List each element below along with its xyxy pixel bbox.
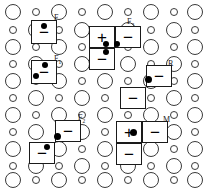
lattice-circle-big [187, 107, 203, 123]
dot-f2-1 [54, 133, 61, 140]
cell-m-bl-symbol: − [117, 144, 141, 164]
lattice-circle-small [170, 145, 178, 153]
lattice-circle-small [191, 94, 199, 102]
label-f1: F1 [54, 55, 61, 65]
lattice-circle-small [191, 26, 199, 34]
cell-f2-bot[interactable]: − [29, 142, 55, 164]
label-f: F [54, 14, 58, 22]
lattice-circle-big [187, 39, 203, 55]
lattice-circle-big [166, 90, 182, 106]
lattice-circle-big [74, 90, 90, 106]
lattice-circle-big [97, 4, 113, 20]
lattice-circle-small [101, 94, 109, 102]
dot-f3-3 [103, 49, 109, 55]
lattice-circle-big [74, 56, 90, 72]
lattice-circle-small [78, 8, 86, 16]
lattice-circle-small [170, 176, 178, 184]
dot-f-a [41, 23, 47, 29]
lattice-circle-big [187, 4, 203, 20]
cell-r-bot[interactable]: − [120, 87, 146, 109]
lattice-circle-small [170, 43, 178, 51]
lattice-circle-small [32, 111, 40, 119]
lattice-circle-small [147, 26, 155, 34]
label-f3-subscript: 3 [131, 22, 134, 28]
lattice-circle-big [97, 141, 113, 157]
label-f2: F2 [78, 114, 85, 124]
lattice-circle-big [74, 22, 90, 38]
lattice-circle-big [5, 172, 21, 188]
dot-f3-1 [103, 41, 109, 47]
lattice-circle-small [55, 162, 63, 170]
lattice-circle-big [97, 107, 113, 123]
label-f3: F3 [127, 18, 134, 28]
lattice-circle-big [5, 4, 21, 20]
lattice-circle-big [143, 141, 159, 157]
dot-f3-2 [114, 41, 120, 47]
lattice-circle-big [5, 107, 21, 123]
cell-f3-tl-symbol: + [90, 27, 114, 47]
lattice-circle-big [166, 124, 182, 140]
lattice-circle-small [191, 162, 199, 170]
label-f2-subscript: 2 [82, 118, 85, 124]
lattice-circle-small [191, 60, 199, 68]
lattice-circle-small [9, 128, 17, 136]
lattice-circle-small [78, 176, 86, 184]
lattice-circle-small [191, 128, 199, 136]
lattice-circle-big [143, 4, 159, 20]
label-m: M [163, 116, 170, 124]
cell-f3-bl-symbol: − [90, 49, 114, 69]
cell-f3-bl[interactable]: − [89, 48, 115, 70]
lattice-circle-big [187, 73, 203, 89]
lattice-circle-small [170, 8, 178, 16]
lattice-circle-small [101, 128, 109, 136]
cell-f2-bot-symbol: − [30, 143, 54, 163]
dot-f1-a2 [33, 73, 39, 79]
lattice-circle-big [5, 39, 21, 55]
lattice-circle-big [143, 39, 159, 55]
dot-r [145, 76, 152, 83]
lattice-circle-small [9, 162, 17, 170]
lattice-circle-big [5, 141, 21, 157]
cell-m-tr[interactable]: − [142, 121, 168, 143]
lattice-circle-big [28, 124, 44, 140]
dot-m [130, 129, 137, 136]
lattice-circle-small [78, 43, 86, 51]
lattice-circle-small [32, 43, 40, 51]
lattice-circle-small [124, 176, 132, 184]
cell-m-tr-symbol: − [143, 122, 167, 142]
lattice-circle-small [124, 8, 132, 16]
lattice-circle-small [9, 60, 17, 68]
lattice-circle-small [147, 94, 155, 102]
lattice-circle-big [28, 90, 44, 106]
cell-m-bl[interactable]: − [116, 143, 142, 165]
lattice-circle-small [78, 77, 86, 85]
lattice-circle-small [55, 94, 63, 102]
lattice-circle-small [170, 111, 178, 119]
lattice-circle-big [5, 73, 21, 89]
lattice-circle-small [147, 162, 155, 170]
lattice-circle-small [9, 94, 17, 102]
lattice-circle-big [97, 172, 113, 188]
lattice-circle-small [32, 8, 40, 16]
lattice-circle-small [101, 162, 109, 170]
label-r: R [168, 60, 173, 68]
dot-f1-a1 [42, 62, 48, 68]
lattice-circle-big [166, 22, 182, 38]
cell-f3-tl[interactable]: + [89, 26, 115, 48]
lattice-diagram-canvas: −−+−−−−−−+−− FF1F3RF2M [0, 0, 207, 188]
dot-f2-2 [44, 144, 50, 150]
lattice-circle-small [32, 176, 40, 184]
lattice-circle-small [9, 26, 17, 34]
cell-r-bot-symbol: − [121, 88, 145, 108]
lattice-circle-big [74, 158, 90, 174]
lattice-circle-big [187, 141, 203, 157]
lattice-circle-big [120, 56, 136, 72]
lattice-circle-big [97, 73, 113, 89]
lattice-circle-small [78, 145, 86, 153]
lattice-circle-big [143, 172, 159, 188]
lattice-circle-big [187, 172, 203, 188]
lattice-circle-small [124, 77, 132, 85]
lattice-circle-big [166, 158, 182, 174]
lattice-circle-small [124, 111, 132, 119]
label-f1-subscript: 1 [58, 59, 61, 65]
